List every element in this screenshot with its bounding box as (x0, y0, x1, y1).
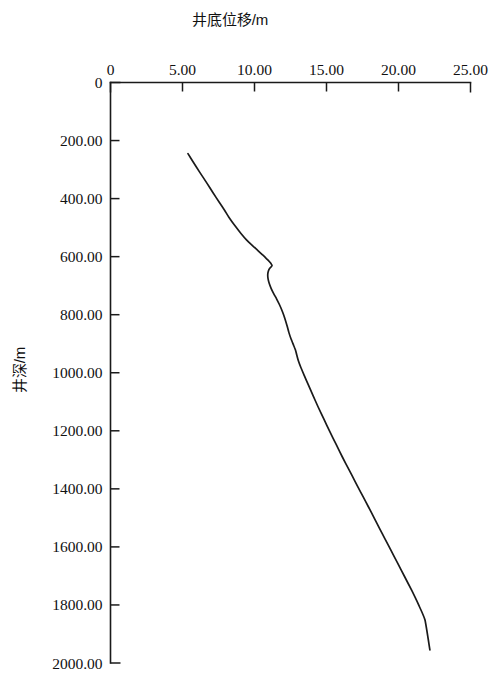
y-axis-title: 井深/m (11, 347, 28, 394)
y-tick-label: 1800.00 (52, 596, 103, 613)
y-tick-label: 1600.00 (52, 538, 103, 555)
x-tick-label: 0 (107, 61, 115, 78)
y-tick-label: 1400.00 (52, 480, 103, 497)
y-tick-label: 1200.00 (52, 422, 103, 439)
y-tick-label: 0 (95, 74, 103, 91)
x-tick-label: 15.00 (309, 61, 344, 78)
y-tick-label: 600.00 (60, 248, 103, 265)
y-tick-label: 200.00 (60, 132, 103, 149)
well-displacement-depth-plot: 05.0010.0015.0020.0025.00 0200.00400.006… (0, 0, 496, 676)
y-tick-label: 1000.00 (52, 364, 103, 381)
y-axis-ticks (111, 83, 121, 664)
y-axis-tick-labels: 0200.00400.00600.00800.001000.001200.001… (52, 74, 103, 672)
x-tick-label: 25.00 (453, 61, 488, 78)
x-axis-ticks (111, 83, 471, 93)
chart-figure: 05.0010.0015.0020.0025.00 0200.00400.006… (0, 0, 496, 676)
x-axis-title: 井底位移/m (192, 11, 269, 28)
x-tick-label: 10.00 (237, 61, 272, 78)
x-tick-label: 20.00 (381, 61, 416, 78)
y-tick-label: 400.00 (60, 190, 103, 207)
displacement-depth-curve (188, 154, 430, 650)
x-axis-tick-labels: 05.0010.0015.0020.0025.00 (107, 61, 489, 78)
y-tick-label: 800.00 (60, 306, 103, 323)
x-tick-label: 5.00 (169, 61, 196, 78)
y-tick-label: 2000.00 (52, 655, 103, 672)
